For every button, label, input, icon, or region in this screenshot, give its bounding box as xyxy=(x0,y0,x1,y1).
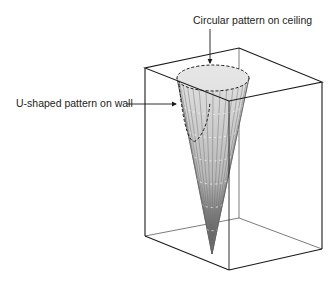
ceiling-circle-pattern xyxy=(177,65,249,91)
floor-front-right-edge xyxy=(229,249,322,270)
floor-front-left-edge xyxy=(145,236,229,270)
wall-label: U-shaped pattern on wall xyxy=(16,97,133,109)
floor-back-left-edge xyxy=(145,218,239,236)
light-cone xyxy=(177,65,249,254)
ceiling-label: Circular pattern on ceiling xyxy=(193,14,312,26)
diagram-canvas: Circular pattern on ceiling U-shaped pat… xyxy=(0,0,336,284)
floor-back-right-edge xyxy=(239,218,322,249)
